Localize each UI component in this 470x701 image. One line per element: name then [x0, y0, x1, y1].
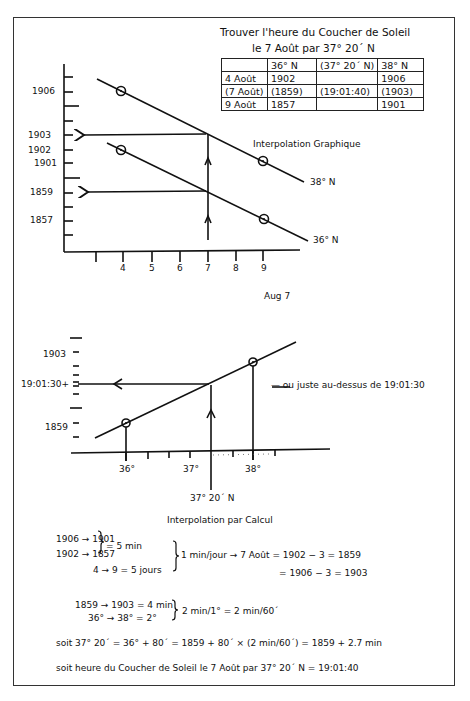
x-axis-2 — [71, 449, 330, 453]
calc-soit-2: soit heure du Coucher de Soleil le 7 Aoû… — [56, 664, 359, 673]
chart1-title: Interpolation Graphique — [253, 140, 361, 149]
calc-line-2b: 36° → 38° = 2° — [88, 614, 157, 623]
x-label-7: 7 — [205, 264, 211, 273]
x-axis — [64, 250, 300, 252]
line-38N — [97, 79, 304, 182]
series-label-36N: 36° N — [313, 236, 339, 245]
y-label-1901: 1901 — [34, 159, 57, 168]
chart-calcul — [70, 338, 330, 490]
chart1-xlabel: Aug 7 — [264, 292, 290, 301]
chart-graphique — [0, 0, 470, 701]
calc-rate-2: = 1906 − 3 = 1903 — [279, 569, 367, 578]
y-label-1859: 1859 — [30, 188, 53, 197]
calc-line-1b: 1902 → 1857 — [56, 550, 115, 559]
y-label-1857: 1857 — [30, 216, 53, 225]
y2-label-1903: 1903 — [43, 350, 66, 359]
calc-rate: 1 min/jour → 7 Août = 1902 − 3 = 1859 — [181, 551, 361, 560]
calc-line-1c: 4 → 9 = 5 jours — [93, 566, 162, 575]
line-7aout — [95, 342, 296, 438]
chart2-note: — ou juste au-dessus de 19:01:30 — [271, 381, 425, 390]
series-label-38N: 38° N — [310, 178, 336, 187]
calc-rate-deg: 2 min/1° = 2 min/60´ — [182, 607, 279, 616]
y2-label-1859: 1859 — [45, 423, 68, 432]
x-label-6: 6 — [177, 264, 183, 273]
calc-eq-5min: = 5 min — [106, 542, 142, 551]
chart2-title: Interpolation par Calcul — [167, 516, 273, 525]
calc-line-2a: 1859 → 1903 = 4 min — [75, 601, 173, 610]
y-label-1903: 1903 — [28, 131, 51, 140]
brace-jours — [173, 541, 179, 571]
calc-soit-1: soit 37° 20´ = 36° + 80´ = 1859 + 80´ × … — [56, 639, 382, 648]
x2-label-37: 37° — [183, 465, 199, 474]
y-label-1902: 1902 — [28, 146, 51, 155]
x-label-8: 8 — [233, 264, 239, 273]
x2-label-36: 36° — [119, 465, 135, 474]
x-label-5: 5 — [149, 264, 155, 273]
y-label-1906: 1906 — [32, 87, 55, 96]
x-label-4: 4 — [120, 264, 126, 273]
y2-label-190130: 19:01:30+ — [21, 380, 69, 389]
x-label-9: 9 — [261, 264, 267, 273]
marker-label-37-20: 37° 20´ N — [190, 494, 234, 503]
x2-label-38: 38° — [245, 465, 261, 474]
